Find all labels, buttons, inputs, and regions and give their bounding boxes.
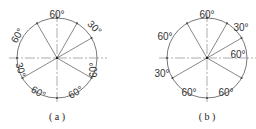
angle-label: 60°	[230, 49, 245, 60]
division-mark	[36, 22, 38, 24]
radial-line	[187, 23, 207, 58]
angle-label: 60°	[66, 84, 85, 101]
angle-label: 60°	[29, 84, 48, 101]
division-mark	[91, 37, 93, 39]
radial-line	[172, 58, 207, 78]
division-mark	[206, 97, 208, 99]
center-point	[206, 57, 209, 60]
angle-label: 30°	[14, 61, 29, 78]
division-mark	[241, 37, 243, 39]
radial-line	[57, 58, 92, 78]
angle-label: 60°	[9, 26, 26, 45]
division-mark	[76, 22, 78, 24]
division-mark	[241, 77, 243, 79]
angle-label: 60°	[157, 31, 172, 42]
angle-label: 60°	[218, 87, 233, 98]
radial-line	[37, 23, 57, 58]
angle-label: 30°	[85, 18, 103, 36]
angle-label: 30°	[154, 68, 169, 79]
angle-label: 30°	[233, 22, 248, 33]
division-mark	[56, 97, 58, 99]
division-mark	[226, 22, 228, 24]
angle-label: 60°	[199, 9, 214, 20]
division-mark	[16, 57, 18, 59]
angle-label: 60°	[181, 87, 196, 98]
division-mark	[186, 22, 188, 24]
caption-b: ( b )	[199, 111, 216, 123]
figure-b: 60°30°60°60°60°30°60°	[154, 9, 256, 104]
radial-line	[57, 38, 92, 58]
angle-label: 60°	[88, 62, 99, 77]
figure-a: 60°30°60°60°60°30°60°	[9, 9, 107, 104]
angle-label: 60°	[49, 9, 64, 20]
division-mark	[171, 77, 173, 79]
division-mark	[166, 57, 168, 59]
center-point	[56, 57, 59, 60]
diagram-canvas: 60°30°60°60°60°30°60° 60°30°60°60°60°30°…	[0, 0, 256, 129]
radial-line	[207, 23, 227, 58]
radial-line	[57, 23, 77, 58]
radial-line	[207, 58, 242, 78]
caption-a: ( a )	[49, 111, 65, 123]
